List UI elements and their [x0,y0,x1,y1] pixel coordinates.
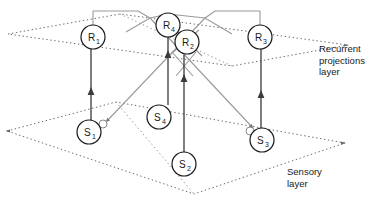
node-R2-label: R [182,37,189,48]
feedforward-S3-to-R3 [258,49,265,128]
node-S2[interactable]: S 2 [172,152,196,176]
node-S4-subscript: 4 [162,118,166,125]
node-R2[interactable]: R 2 [175,30,199,54]
node-R1-subscript: 1 [96,38,100,45]
diagram-canvas: R 1 R 4 R 2 R 3 S 1 S 4 [0,0,390,205]
node-S3-subscript: 3 [265,141,269,148]
node-S3-label: S [257,135,264,146]
node-R4-subscript: 4 [171,26,175,33]
node-S1-subscript: 1 [92,133,96,140]
node-S4-label: S [154,112,161,123]
node-R3-label: R [255,32,262,43]
diagram-svg: R 1 R 4 R 2 R 3 S 1 S 4 [0,0,390,205]
node-R2-subscript: 2 [190,43,194,50]
node-R3-subscript: 3 [263,38,267,45]
node-S1[interactable]: S 1 [77,120,101,144]
node-S1-label: S [84,127,91,138]
sensory-layer-caption: Sensory layer [287,166,322,189]
node-S2-subscript: 2 [187,165,191,172]
node-S2-label: S [179,159,186,170]
recurrent-layer-caption: Recurrent projections layer [319,43,365,78]
node-R4[interactable]: R 4 [156,13,180,37]
node-R4-label: R [163,20,170,31]
node-S3[interactable]: S 3 [250,128,274,152]
node-S4[interactable]: S 4 [147,105,171,129]
node-R3[interactable]: R 3 [248,25,272,49]
feedforward-S4-to-R4 [165,37,172,105]
recurrent-projection-R3 [106,11,260,122]
node-R1-label: R [88,32,95,43]
node-R1[interactable]: R 1 [81,25,105,49]
